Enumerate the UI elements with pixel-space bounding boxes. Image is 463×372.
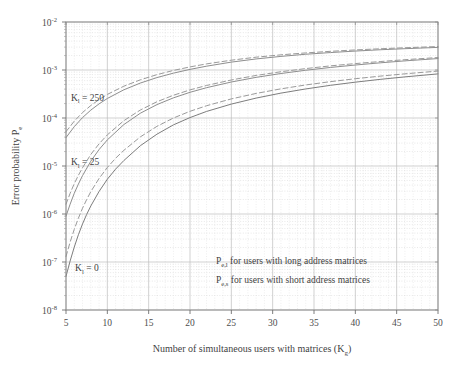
- x-tick-label: 35: [309, 318, 319, 328]
- x-tick-label: 15: [144, 318, 154, 328]
- x-tick-label: 45: [392, 318, 402, 328]
- legend-entry-0: Pe,l for users with long address matrice…: [216, 256, 367, 268]
- annotation-kl-0: Kl = 0: [75, 263, 99, 275]
- x-tick-label: 5: [64, 318, 69, 328]
- annotation-kl-250: Kl = 250: [71, 93, 104, 105]
- x-tick-label: 20: [185, 318, 195, 328]
- chart-figure: 5101520253035404550 10-210-310-410-510-6…: [0, 0, 463, 372]
- x-tick-label: 50: [433, 318, 443, 328]
- annotation-kl-25: Kl = 25: [71, 157, 100, 169]
- x-tick-label: 30: [268, 318, 278, 328]
- legend-entry-1: Pe,s for users with short address matric…: [216, 275, 370, 287]
- x-tick-label: 25: [227, 318, 237, 328]
- error-probability-chart: 5101520253035404550 10-210-310-410-510-6…: [0, 0, 463, 372]
- x-tick-label: 10: [103, 318, 113, 328]
- x-tick-label: 40: [351, 318, 361, 328]
